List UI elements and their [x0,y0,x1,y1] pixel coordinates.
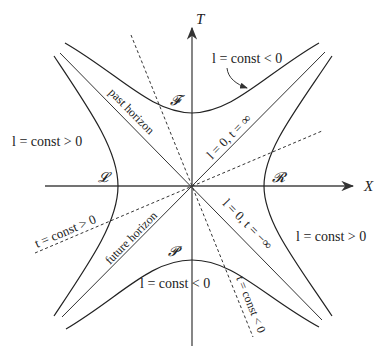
x-axis-label: X [363,178,374,194]
label-top-right: l = const < 0 [212,51,282,66]
kruskal-diagram: T X 𝓕 𝓟 𝓛 𝓡 l = const < 0 l = const < 0 … [0,0,386,360]
label-bottom: l = const < 0 [140,276,210,291]
region-future: 𝓕 [170,93,185,108]
future-horizon-label: future horizon [102,209,160,268]
region-left: 𝓛 [98,170,112,185]
past-horizon-label: past horizon [106,85,157,137]
region-past: 𝓟 [168,244,182,259]
diag-upper-right-label: l = 0, t = ∞ [203,111,254,162]
pointer-arrow [227,68,247,88]
dashed-left-label: t = const > 0 [32,211,98,250]
label-right: l = const > 0 [296,229,366,244]
label-left: l = const > 0 [12,134,82,149]
t-axis-label: T [196,11,206,27]
region-right: 𝓡 [272,170,288,185]
